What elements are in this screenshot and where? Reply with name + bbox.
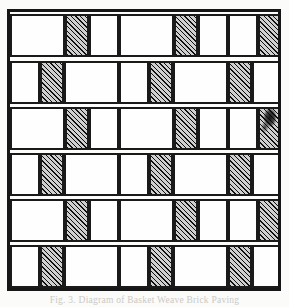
hatched-brick-tile [228, 245, 252, 288]
pattern-row [10, 59, 278, 106]
hatched-brick-tile [40, 153, 64, 196]
pattern-row [10, 12, 278, 59]
blank-brick-tile [119, 107, 174, 150]
blank-brick-tile [228, 199, 258, 242]
hatched-brick-tile [40, 61, 64, 104]
hatched-brick-tile [228, 61, 252, 104]
blank-brick-tile [173, 153, 228, 196]
blank-brick-tile [119, 153, 149, 196]
blank-brick-tile [10, 245, 40, 288]
blank-brick-tile [198, 107, 228, 150]
blank-brick-tile [10, 153, 40, 196]
blank-brick-tile [173, 245, 228, 288]
pattern-row [10, 151, 278, 198]
blank-brick-tile [89, 199, 119, 242]
blank-brick-tile [10, 14, 65, 57]
pattern-row [10, 243, 278, 290]
blank-brick-tile [252, 61, 281, 104]
blank-brick-tile [228, 107, 258, 150]
hatched-brick-tile [65, 199, 89, 242]
blank-brick-tile [64, 61, 119, 104]
blank-brick-tile [119, 199, 174, 242]
blank-brick-tile [252, 153, 281, 196]
blank-brick-tile [64, 245, 119, 288]
hatched-brick-tile [149, 153, 173, 196]
blank-brick-tile [89, 14, 119, 57]
hatched-brick-tile [65, 107, 89, 150]
hatched-brick-tile [174, 14, 198, 57]
blank-brick-tile [10, 61, 40, 104]
hatched-brick-tile [258, 14, 281, 57]
hatched-brick-tile [149, 61, 173, 104]
blank-brick-tile [228, 14, 258, 57]
blank-brick-tile [198, 14, 228, 57]
hatched-brick-tile [149, 245, 173, 288]
blank-brick-tile [252, 245, 281, 288]
blank-brick-tile [119, 245, 149, 288]
pattern-row [10, 105, 278, 152]
blank-brick-tile [119, 14, 174, 57]
blank-brick-tile [89, 107, 119, 150]
hatched-brick-tile [258, 199, 281, 242]
blank-brick-tile [173, 61, 228, 104]
blank-brick-tile [198, 199, 228, 242]
blank-brick-tile [10, 107, 65, 150]
hatched-brick-tile [40, 245, 64, 288]
hatched-brick-tile [174, 107, 198, 150]
hatched-brick-tile [228, 153, 252, 196]
figure-caption: Fig. 3. Diagram of Basket Weave Brick Pa… [0, 294, 289, 307]
pattern-grid [10, 12, 278, 288]
blank-brick-tile [10, 199, 65, 242]
figure-root: Fig. 3. Diagram of Basket Weave Brick Pa… [0, 0, 289, 307]
pattern-frame [7, 9, 281, 291]
pattern-row [10, 197, 278, 244]
hatched-brick-tile [65, 14, 89, 57]
hatched-brick-tile [258, 107, 281, 150]
blank-brick-tile [64, 153, 119, 196]
hatched-brick-tile [174, 199, 198, 242]
blank-brick-tile [119, 61, 149, 104]
